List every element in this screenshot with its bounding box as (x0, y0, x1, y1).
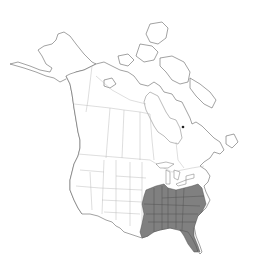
newfoundland (226, 134, 238, 148)
arctic-islands-3 (160, 56, 190, 84)
distribution-map: Species distribution range map (0, 0, 279, 273)
arctic-islands-4 (118, 54, 134, 66)
species-range-southeast-us (140, 184, 206, 252)
baffin-island (190, 78, 216, 108)
arctic-islands-1 (146, 22, 168, 44)
outlier-record-marker (182, 126, 185, 129)
north-america-map-svg (0, 0, 279, 273)
arctic-islands-2 (136, 44, 158, 62)
lake-michigan (166, 170, 170, 184)
